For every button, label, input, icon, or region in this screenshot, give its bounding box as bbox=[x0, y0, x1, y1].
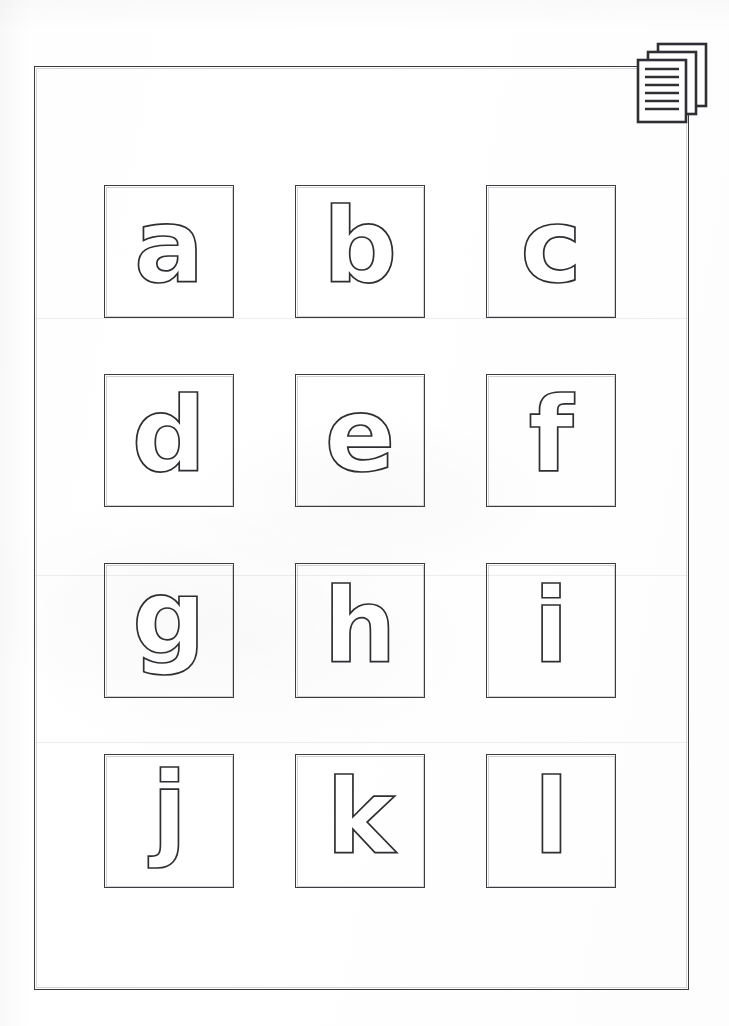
letter-glyph-h: h bbox=[324, 567, 397, 686]
letter-cell-b[interactable]: b bbox=[295, 185, 425, 318]
letter-cell-e[interactable]: e bbox=[295, 374, 425, 507]
letter-glyph-i: i bbox=[533, 567, 568, 686]
letter-glyph-f: f bbox=[528, 374, 575, 496]
letter-glyph-b: b bbox=[323, 185, 397, 307]
letter-glyph-c: c bbox=[520, 185, 582, 307]
letter-glyph-j: j bbox=[147, 750, 186, 870]
document-stack-icon[interactable] bbox=[634, 38, 718, 130]
letter-cell-j[interactable]: j bbox=[104, 754, 234, 888]
letter-cell-i[interactable]: i bbox=[486, 563, 616, 698]
letter-cell-a[interactable]: a bbox=[104, 185, 234, 318]
letter-cell-f[interactable]: f bbox=[486, 374, 616, 507]
letter-cell-l[interactable]: l bbox=[486, 754, 616, 888]
letter-grid: a b c d e f g h bbox=[104, 185, 616, 886]
letter-glyph-e: e bbox=[325, 374, 396, 496]
letter-cell-g[interactable]: g bbox=[104, 563, 234, 698]
letter-cell-d[interactable]: d bbox=[104, 374, 234, 507]
letter-glyph-a: a bbox=[134, 185, 204, 307]
letter-glyph-k: k bbox=[326, 757, 397, 877]
letter-glyph-l: l bbox=[533, 757, 568, 877]
letter-glyph-d: d bbox=[132, 374, 206, 496]
letter-cell-k[interactable]: k bbox=[295, 754, 425, 888]
letter-glyph-g: g bbox=[132, 558, 205, 677]
letter-cell-h[interactable]: h bbox=[295, 563, 425, 698]
letter-cell-c[interactable]: c bbox=[486, 185, 616, 318]
